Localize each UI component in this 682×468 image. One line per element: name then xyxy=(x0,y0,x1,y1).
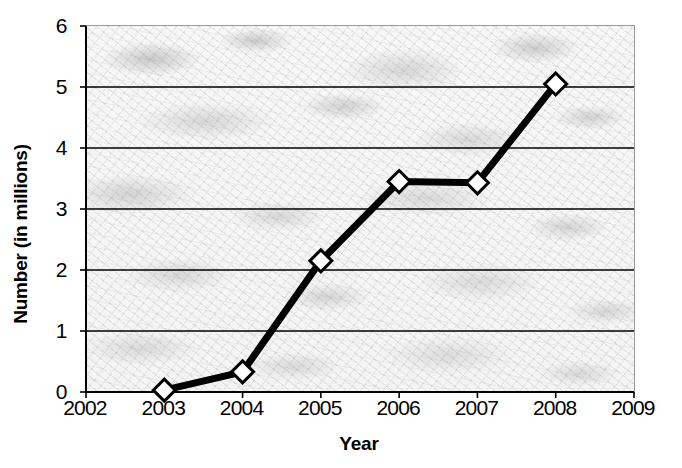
line-chart: Number (in millions) 0123456 20022003200… xyxy=(0,0,682,468)
data-series-line xyxy=(164,84,555,390)
x-axis-title: Year xyxy=(85,433,633,455)
plot-svg xyxy=(72,12,648,406)
plot-area xyxy=(85,25,635,393)
data-point-marker xyxy=(153,379,175,401)
series-polyline xyxy=(164,84,555,390)
data-series-markers xyxy=(153,73,566,401)
